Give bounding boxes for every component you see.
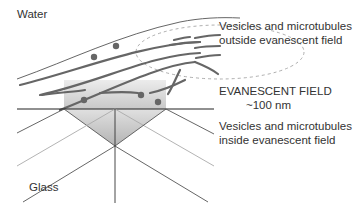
glass-label: Glass: [29, 181, 58, 194]
evanescent-field-depth: ~100 nm: [246, 99, 291, 112]
vesicle: [138, 92, 144, 98]
tirf-diagram: Water Vesicles and microtubules outside …: [0, 0, 361, 213]
inside-field-label-line1: Vesicles and microtubules: [219, 120, 352, 133]
evanescent-field-title: EVANESCENT FIELD: [219, 85, 332, 98]
cell-membrane-line: [17, 18, 240, 79]
vesicle: [155, 99, 161, 105]
vesicle: [91, 54, 97, 60]
outside-field-label-line1: Vesicles and microtubules: [219, 20, 352, 33]
water-label: Water: [17, 8, 47, 21]
inside-field-label-line2: inside evanescent field: [219, 134, 335, 147]
outside-field-label-line2: outside evanescent field: [219, 34, 342, 47]
vesicle: [113, 43, 119, 49]
vesicle: [81, 97, 87, 103]
